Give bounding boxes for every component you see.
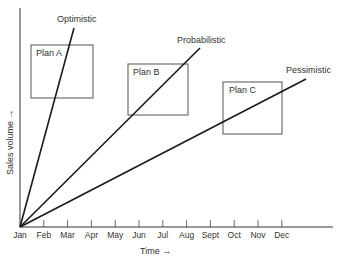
plan-c-label: Plan C (229, 85, 257, 95)
sales-forecast-diagram: JanFebMarAprMayJunJulAugSeptOctNovDec Sa… (0, 0, 339, 264)
y-axis-label: Sales volume → (5, 109, 15, 175)
x-axis-tick-labels: JanFebMarAprMayJunJulAugSeptOctNovDec (13, 230, 290, 240)
optimistic-label: Optimistic (57, 14, 97, 24)
x-tick-label-may: May (107, 230, 124, 240)
x-tick-label-oct: Oct (228, 230, 242, 240)
x-tick-label-apr: Apr (85, 230, 98, 240)
pessimistic-label: Pessimistic (286, 65, 332, 75)
x-axis-ticks (44, 220, 282, 227)
probabilistic-label: Probabilistic (177, 35, 226, 45)
x-tick-label-sept: Sept (202, 230, 220, 240)
x-tick-label-mar: Mar (60, 230, 75, 240)
x-axis-label: Time → (140, 246, 171, 256)
x-tick-label-jan: Jan (13, 230, 27, 240)
x-tick-label-feb: Feb (36, 230, 51, 240)
x-tick-label-jul: Jul (157, 230, 168, 240)
plan-a-label: Plan A (36, 48, 62, 58)
plan-b-label: Plan B (133, 67, 160, 77)
x-tick-label-aug: Aug (179, 230, 194, 240)
probabilistic-line (20, 48, 200, 227)
pessimistic-line (20, 79, 306, 227)
x-tick-label-dec: Dec (274, 230, 290, 240)
x-tick-label-jun: Jun (132, 230, 146, 240)
x-tick-label-nov: Nov (250, 230, 266, 240)
